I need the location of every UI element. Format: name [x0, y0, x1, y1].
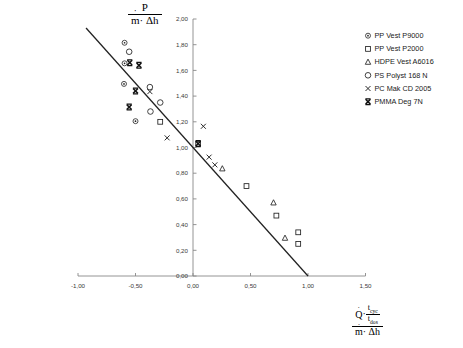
legend-label: HDPE Vest A6016	[375, 57, 434, 66]
legend-marker-square-icon	[366, 47, 371, 52]
y-tick-label: 1,60	[176, 67, 189, 74]
series-pmma-deg-7n	[127, 60, 201, 147]
x-tick-label: 0,00	[187, 282, 200, 289]
t-dos-subscript: dos	[370, 319, 378, 325]
time-ratio-fraction: tcyctdos	[366, 304, 380, 326]
data-point	[133, 119, 138, 124]
series-ps-polyst-168-n	[126, 49, 163, 114]
x-axis-fraction: ̇Q·tcyctdos ̇m· Δh	[352, 304, 383, 337]
axes	[78, 19, 366, 276]
y-tick-label: 0,40	[176, 221, 189, 228]
y-tick-label: 0,60	[176, 195, 189, 202]
y-tick-label: 0,20	[176, 247, 189, 254]
legend-label: PP Vest P9000	[375, 31, 424, 40]
legend-marker-cross-icon	[366, 86, 371, 91]
scatter-plot-svg: -1,00-0,500,000,501,001,500,000,200,400,…	[0, 0, 463, 348]
y-axis-denominator: ̇m· Δh	[128, 15, 162, 27]
legend-marker-circle-icon	[365, 73, 371, 79]
legend-label: PMMA Deg 7N	[375, 97, 423, 106]
data-point	[148, 109, 154, 115]
data-point	[274, 213, 279, 218]
x-axis-label: ̇Q·tcyctdos ̇m· Δh	[352, 304, 383, 337]
x-tick-label: 0,50	[244, 282, 257, 289]
legend-marker-triangle-icon	[365, 59, 370, 64]
x-tick-label: -0,50	[128, 282, 143, 289]
y-tick-label: 1,00	[176, 144, 189, 151]
y-tick-label: 0,00	[176, 272, 189, 279]
t-dos: tdos	[366, 315, 380, 325]
y-axis-denominator-rest: · Δh	[140, 14, 159, 26]
data-point	[165, 135, 170, 140]
data-point	[212, 162, 217, 167]
trend-line	[86, 28, 308, 276]
data-point	[271, 200, 276, 205]
data-point	[133, 88, 138, 94]
data-point	[157, 100, 163, 106]
legend-marker-circle-dot-icon	[366, 33, 371, 38]
data-point	[122, 81, 127, 86]
data-point	[158, 119, 163, 124]
x-tick-label: 1,00	[302, 282, 315, 289]
data-point	[207, 155, 212, 160]
legend-label: PC Mak CD 2005	[375, 84, 432, 93]
regression-line	[86, 28, 308, 276]
data-point	[122, 61, 127, 66]
t-cyc-subscript: cyc	[370, 308, 378, 314]
data-point	[201, 124, 206, 129]
x-axis-denominator: ̇m· Δh	[352, 327, 383, 338]
y-tick-label: 2,00	[176, 15, 189, 22]
y-axis-fraction: P ̇m· Δh	[128, 2, 162, 26]
data-point	[122, 40, 127, 45]
data-point	[126, 49, 132, 55]
data-point	[244, 184, 249, 189]
data-point	[127, 104, 132, 110]
data-point	[127, 60, 132, 66]
x-tick-label: 1,50	[359, 282, 372, 289]
series-pp-vest-p9000	[122, 40, 139, 123]
chart-container: -1,00-0,500,000,501,001,500,000,200,400,…	[0, 0, 463, 348]
legend: PP Vest P9000PP Vest P2000HDPE Vest A601…	[365, 31, 434, 106]
y-tick-label: 1,40	[176, 92, 189, 99]
data-point	[296, 241, 301, 246]
y-tick-label: 1,80	[176, 41, 189, 48]
mass-flow-symbol: m	[131, 14, 140, 26]
tick-labels: -1,00-0,500,000,501,001,500,000,200,400,…	[71, 15, 372, 289]
data-point	[282, 235, 287, 240]
x-axis-denominator-rest: · Δh	[363, 326, 380, 337]
legend-marker-cross-bold-icon	[365, 99, 370, 105]
data-point	[296, 230, 301, 235]
data-point	[136, 62, 141, 68]
heat-flow-symbol: Q	[355, 309, 362, 320]
data-point	[220, 166, 225, 171]
data-points	[122, 40, 301, 246]
y-axis-label: P ̇m· Δh	[128, 2, 162, 26]
legend-label: PP Vest P2000	[375, 44, 424, 53]
y-tick-label: 0,80	[176, 169, 189, 176]
series-hdpe-vest-a6016	[220, 166, 288, 241]
x-axis-numerator: ̇Q·tcyctdos	[352, 304, 383, 327]
y-tick-label: 1,20	[176, 118, 189, 125]
mass-flow-symbol-x: m	[355, 326, 363, 337]
legend-label: PS Polyst 168 N	[375, 71, 428, 80]
x-tick-label: -1,00	[71, 282, 86, 289]
